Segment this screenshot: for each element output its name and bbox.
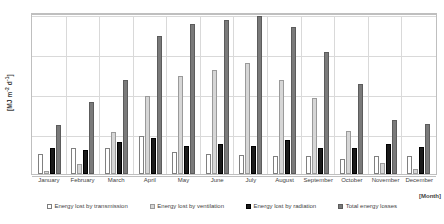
bar	[44, 171, 49, 174]
bar	[374, 156, 379, 174]
legend-swatch-icon	[338, 204, 343, 209]
month-bar-group	[67, 17, 101, 174]
x-axis-tick-label: January	[32, 177, 66, 183]
x-axis-tick-labels: JanuaryFebruaryMarchAprilMayJuneJulyAugu…	[32, 177, 436, 183]
bar	[117, 142, 122, 174]
bar	[184, 146, 189, 174]
x-axis-tick-label: June	[200, 177, 234, 183]
bar	[279, 80, 284, 174]
month-bar-group	[167, 17, 201, 174]
bar	[419, 147, 424, 174]
bar-groups	[33, 17, 435, 174]
bar	[380, 163, 385, 174]
bar	[145, 96, 150, 174]
y-axis-title: [MJ m-2 d-1]	[4, 63, 13, 123]
bar	[312, 98, 317, 174]
x-axis-tick-label: July	[234, 177, 268, 183]
month-bar-group	[335, 17, 369, 174]
month-bar-group	[100, 17, 134, 174]
bar	[123, 80, 128, 174]
month-bar-group	[33, 17, 67, 174]
bar	[105, 148, 110, 174]
bar	[425, 124, 430, 174]
bar	[386, 144, 391, 174]
x-axis-tick-label: May	[167, 177, 201, 183]
legend-item: Energy lost by transmission	[47, 203, 128, 209]
bar	[89, 102, 94, 174]
bar	[224, 20, 229, 174]
bar	[239, 155, 244, 174]
bar	[111, 132, 116, 174]
legend-swatch-icon	[47, 204, 52, 209]
month-bar-group	[234, 17, 268, 174]
y-axis-title-text: [MJ m-2 d-1]	[7, 74, 14, 111]
bar	[318, 148, 323, 174]
legend-label: Total energy losses	[346, 203, 397, 209]
bar	[77, 164, 82, 174]
bar	[358, 84, 363, 174]
bar	[151, 138, 156, 174]
x-axis-tick-label: March	[99, 177, 133, 183]
bar	[273, 156, 278, 174]
legend-label: Energy lost by radiation	[254, 203, 317, 209]
x-axis-tick-label: August	[268, 177, 302, 183]
bar	[285, 140, 290, 174]
chart-legend: Energy lost by transmissionEnergy lost b…	[0, 203, 444, 209]
bar	[139, 136, 144, 174]
legend-label: Energy lost by ventilation	[157, 203, 224, 209]
legend-swatch-icon	[150, 204, 155, 209]
bar	[157, 36, 162, 174]
bar	[245, 63, 250, 174]
month-bar-group	[134, 17, 168, 174]
bar	[190, 24, 195, 174]
legend-item: Energy lost by radiation	[246, 203, 316, 209]
x-axis-tick-label: September	[301, 177, 335, 183]
x-axis-tick-label: December	[402, 177, 436, 183]
month-bar-group	[369, 17, 403, 174]
legend-item: Total energy losses	[338, 203, 397, 209]
bar	[340, 159, 345, 174]
bar	[218, 144, 223, 174]
bar	[56, 125, 61, 174]
bar	[392, 120, 397, 174]
bar	[346, 131, 351, 174]
bar	[172, 152, 177, 174]
bar	[324, 52, 329, 174]
x-axis-tick-label: November	[369, 177, 403, 183]
plot-area: 05101520	[31, 13, 437, 175]
bar	[291, 27, 296, 174]
x-axis-tick-label: October	[335, 177, 369, 183]
bar	[38, 154, 43, 174]
x-axis-tick-label: April	[133, 177, 167, 183]
bar	[251, 146, 256, 174]
bar	[50, 148, 55, 174]
bar	[212, 70, 217, 174]
bar	[413, 169, 418, 174]
bar	[83, 150, 88, 174]
bar	[257, 16, 262, 174]
month-bar-group	[201, 17, 235, 174]
x-axis-title: [Month]	[419, 193, 441, 199]
bar	[178, 76, 183, 174]
legend-item: Energy lost by ventilation	[150, 203, 224, 209]
bar	[71, 148, 76, 174]
bar	[306, 156, 311, 174]
legend-swatch-icon	[246, 204, 251, 209]
month-bar-group	[402, 17, 435, 174]
bar	[407, 156, 412, 174]
energy-losses-bar-chart: [MJ m-2 d-1] 05101520 JanuaryFebruaryMar…	[0, 0, 444, 224]
month-bar-group	[302, 17, 336, 174]
x-axis-tick-label: February	[66, 177, 100, 183]
legend-label: Energy lost by transmission	[54, 203, 127, 209]
bar	[206, 154, 211, 174]
bar	[352, 148, 357, 174]
month-bar-group	[268, 17, 302, 174]
